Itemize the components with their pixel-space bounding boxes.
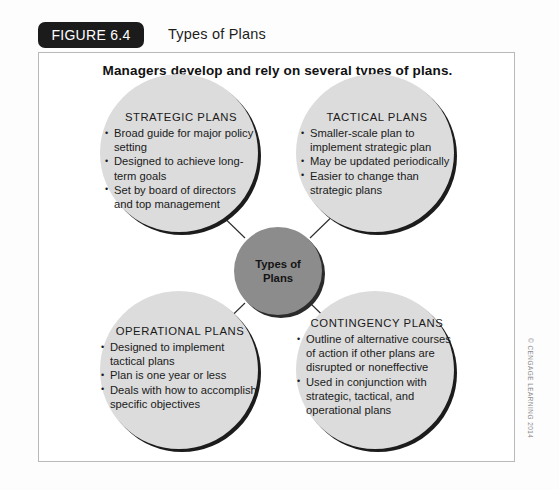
- center-node-label: Types of Plans: [230, 257, 326, 285]
- node-tactical-heading: TACTICAL PLANS: [301, 111, 453, 123]
- list-item: Outline of alternative courses of action…: [297, 332, 457, 375]
- node-strategic-bullets: Broad guide for major policy setting Des…: [105, 126, 257, 211]
- node-contingency-heading: CONTINGENCY PLANS: [297, 317, 457, 329]
- figure-container: FIGURE 6.4 Types of Plans Managers devel…: [0, 0, 559, 490]
- node-contingency: CONTINGENCY PLANS Outline of alternative…: [297, 317, 457, 417]
- list-item: Deals with how to accomplish specific ob…: [101, 383, 259, 411]
- copyright-notice: © CENGAGE LEARNING 2014: [527, 338, 534, 468]
- figure-header: FIGURE 6.4 Types of Plans: [38, 22, 515, 52]
- list-item: Easier to change than strategic plans: [301, 169, 453, 197]
- figure-number-badge: FIGURE 6.4: [38, 22, 144, 48]
- node-operational-bullets: Designed to implement tactical plans Pla…: [101, 340, 259, 411]
- diagram-canvas: STRATEGIC PLANS Broad guide for major po…: [39, 53, 516, 463]
- list-item: May be updated periodically: [301, 154, 453, 168]
- list-item: Broad guide for major policy setting: [105, 126, 257, 154]
- center-node-line1: Types of: [230, 257, 326, 271]
- node-operational: OPERATIONAL PLANS Designed to implement …: [101, 325, 259, 411]
- list-item: Smaller-scale plan to implement strategi…: [301, 126, 453, 154]
- node-strategic-heading: STRATEGIC PLANS: [105, 111, 257, 123]
- list-item: Designed to implement tactical plans: [101, 340, 259, 368]
- node-tactical: TACTICAL PLANS Smaller-scale plan to imp…: [301, 111, 453, 197]
- node-operational-heading: OPERATIONAL PLANS: [101, 325, 259, 337]
- figure-frame: Managers develop and rely on several typ…: [38, 52, 515, 462]
- list-item: Used in conjunction with strategic, tact…: [297, 375, 457, 418]
- figure-title: Types of Plans: [168, 26, 266, 42]
- list-item: Plan is one year or less: [101, 368, 259, 382]
- node-contingency-bullets: Outline of alternative courses of action…: [297, 332, 457, 417]
- center-node-line2: Plans: [230, 271, 326, 285]
- list-item: Set by board of directors and top manage…: [105, 183, 257, 211]
- node-strategic: STRATEGIC PLANS Broad guide for major po…: [105, 111, 257, 211]
- list-item: Designed to achieve long-term goals: [105, 154, 257, 182]
- node-tactical-bullets: Smaller-scale plan to implement strategi…: [301, 126, 453, 197]
